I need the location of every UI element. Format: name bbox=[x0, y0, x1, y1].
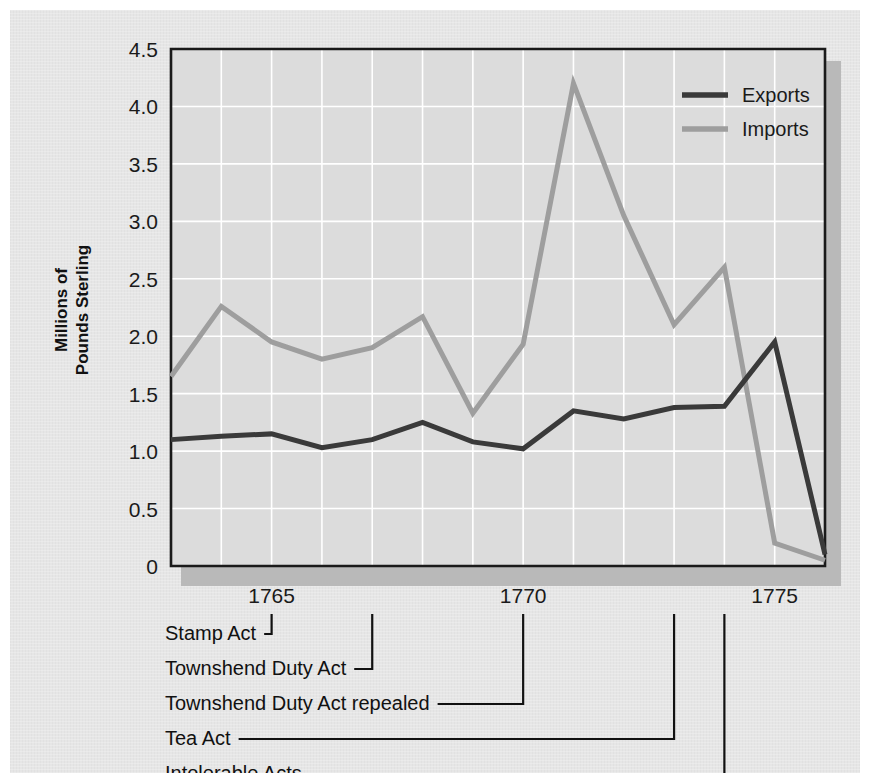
y-axis-tick-label: 0 bbox=[146, 555, 158, 578]
legend-label-exports: Exports bbox=[742, 84, 810, 106]
y-axis-tick-label: 1.0 bbox=[129, 440, 158, 463]
y-axis-tick-label: 1.5 bbox=[129, 383, 158, 406]
y-axis-tick-label: 3.0 bbox=[129, 210, 158, 233]
event-annotations: Stamp ActTownshend Duty ActTownshend Dut… bbox=[165, 614, 724, 773]
legend-label-imports: Imports bbox=[742, 118, 809, 140]
x-axis-tick-label: 1775 bbox=[751, 584, 798, 607]
annotation-leader-line bbox=[264, 614, 271, 634]
annotation-label: Stamp Act bbox=[165, 622, 257, 644]
y-axis-title-line-1: Millions of bbox=[52, 268, 71, 352]
x-axis-tick-label: 1765 bbox=[248, 584, 295, 607]
x-axis-tick-label: 1770 bbox=[500, 584, 547, 607]
annotation-label: Intolerable Acts bbox=[165, 762, 302, 773]
y-axis-tick-label: 2.0 bbox=[129, 325, 158, 348]
y-axis-tick-label: 4.5 bbox=[129, 38, 158, 61]
annotation-leader-line bbox=[438, 614, 524, 704]
y-axis-tick-label: 4.0 bbox=[129, 95, 158, 118]
exports-imports-line-chart: 00.51.01.52.02.53.03.54.04.5 17651770177… bbox=[10, 10, 860, 773]
y-axis-tick-labels: 00.51.01.52.02.53.03.54.04.5 bbox=[129, 38, 158, 578]
annotation-label: Townshend Duty Act bbox=[165, 657, 347, 679]
chart-page: 00.51.01.52.02.53.03.54.04.5 17651770177… bbox=[10, 10, 860, 773]
y-axis-tick-label: 0.5 bbox=[129, 498, 158, 521]
y-axis-tick-label: 3.5 bbox=[129, 153, 158, 176]
y-axis-title-line-2: Pounds Sterling bbox=[73, 245, 92, 375]
y-axis-title: Millions of Pounds Sterling bbox=[52, 245, 92, 375]
annotation-leader-line bbox=[354, 614, 372, 669]
annotation-label: Tea Act bbox=[165, 727, 231, 749]
x-axis-tick-labels: 176517701775 bbox=[248, 584, 798, 607]
annotation-label: Townshend Duty Act repealed bbox=[165, 692, 430, 714]
y-axis-tick-label: 2.5 bbox=[129, 268, 158, 291]
